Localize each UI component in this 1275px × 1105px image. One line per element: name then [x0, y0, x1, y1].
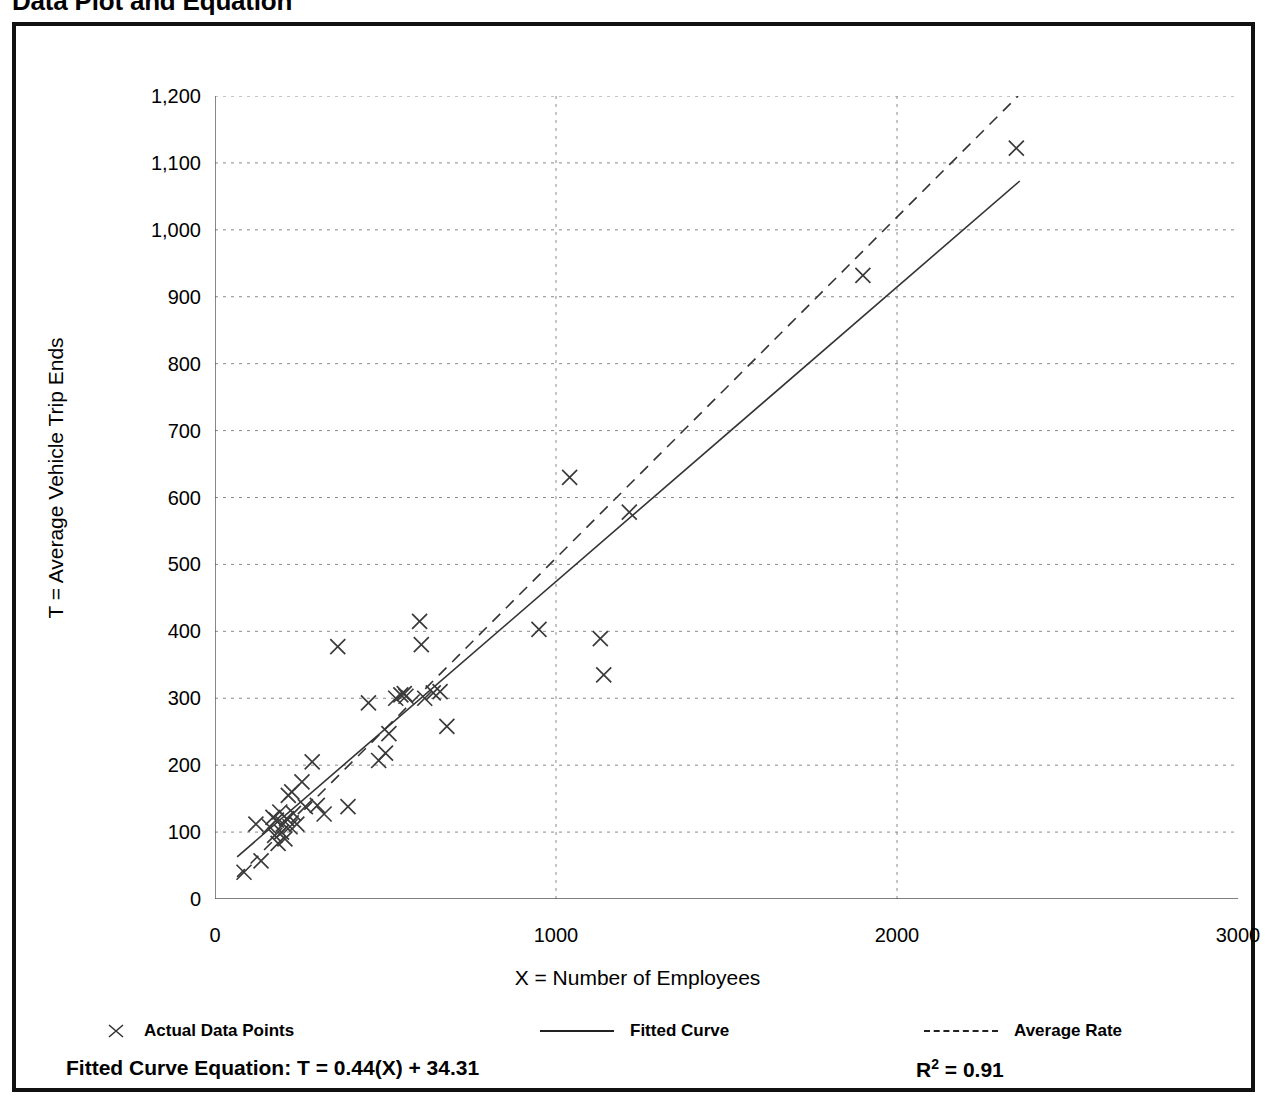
legend-item-fitted-curve: Fitted Curve — [540, 1014, 729, 1048]
chart-legend: Actual Data Points Fitted Curve Average … — [16, 1014, 1259, 1048]
data-point-markers — [236, 141, 1023, 880]
figure-frame: 01002003004005006007008009001,0001,1001,… — [12, 22, 1255, 1092]
x-marker-icon — [104, 1021, 128, 1041]
equation-row: Fitted Curve Equation: T = 0.44(X) + 34.… — [16, 1050, 1259, 1090]
x-tick-label: 0 — [209, 925, 220, 945]
fitted-curve-equation: Fitted Curve Equation: T = 0.44(X) + 34.… — [66, 1056, 479, 1080]
r-squared-value: R2 = 0.91 — [916, 1056, 1004, 1082]
legend-label: Actual Data Points — [144, 1021, 294, 1041]
plot-area — [215, 96, 1238, 899]
x-tick-label: 2000 — [875, 925, 920, 945]
r-squared-prefix: R — [916, 1058, 931, 1081]
scatter-plot-svg — [215, 96, 1238, 899]
gridlines — [215, 96, 1238, 899]
x-tick-label: 3000 — [1216, 925, 1261, 945]
r-squared-exponent: 2 — [931, 1056, 939, 1072]
page-title: Data Plot and Equation — [12, 0, 292, 17]
dashed-line-icon — [924, 1021, 998, 1041]
solid-line-icon — [540, 1021, 614, 1041]
trend-lines — [237, 96, 1020, 877]
y-axis-title: T = Average Vehicle Trip Ends — [44, 198, 68, 758]
legend-item-actual-data-points: Actual Data Points — [104, 1014, 294, 1048]
legend-label: Average Rate — [1014, 1021, 1122, 1041]
x-tick-label: 1000 — [534, 925, 579, 945]
r-squared-number: = 0.91 — [939, 1058, 1004, 1081]
x-axis-title: X = Number of Employees — [16, 966, 1259, 990]
legend-item-average-rate: Average Rate — [924, 1014, 1122, 1048]
legend-label: Fitted Curve — [630, 1021, 729, 1041]
